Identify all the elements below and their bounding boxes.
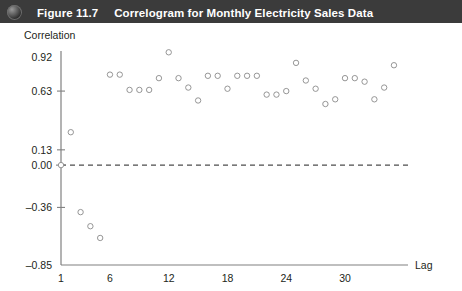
data-point bbox=[117, 72, 122, 77]
data-point bbox=[342, 75, 347, 80]
data-point bbox=[235, 73, 240, 78]
data-point bbox=[372, 97, 377, 102]
data-point bbox=[303, 78, 308, 83]
data-point bbox=[186, 85, 191, 90]
x-tick-label: 30 bbox=[339, 272, 351, 284]
data-point bbox=[362, 79, 367, 84]
figure-caption: Correlogram for Monthly Electricity Sale… bbox=[114, 7, 373, 19]
y-tick-label: 0.00 bbox=[32, 159, 53, 171]
y-tick-label: 0.63 bbox=[32, 85, 53, 97]
data-point bbox=[166, 50, 171, 55]
data-point bbox=[97, 235, 102, 240]
figure-number: Figure 11.7 bbox=[37, 7, 98, 19]
x-tick-label: 6 bbox=[107, 272, 113, 284]
data-point bbox=[68, 130, 73, 135]
y-axis-ticks: 0.920.630.130.00–0.36–0.85 bbox=[26, 51, 66, 271]
data-point bbox=[176, 75, 181, 80]
y-tick-label: –0.85 bbox=[26, 259, 52, 271]
data-point bbox=[225, 86, 230, 91]
data-point bbox=[195, 98, 200, 103]
x-axis-title: Lag bbox=[415, 259, 433, 271]
data-point bbox=[156, 75, 161, 80]
data-point bbox=[293, 60, 298, 65]
data-point bbox=[78, 209, 83, 214]
data-point bbox=[137, 87, 142, 92]
sphere-icon bbox=[7, 5, 22, 20]
data-point bbox=[107, 72, 112, 77]
data-point bbox=[244, 73, 249, 78]
data-point bbox=[127, 87, 132, 92]
data-point bbox=[215, 73, 220, 78]
data-point bbox=[381, 85, 386, 90]
data-points bbox=[58, 50, 396, 241]
x-tick-label: 1 bbox=[58, 272, 64, 284]
data-point bbox=[254, 73, 259, 78]
axis-titles: CorrelationLag bbox=[24, 29, 433, 271]
data-point bbox=[274, 92, 279, 97]
data-point bbox=[284, 88, 289, 93]
y-tick-label: 0.92 bbox=[32, 51, 53, 63]
chart-container: 0.920.630.130.00–0.36–0.85 1612182430 Co… bbox=[0, 25, 462, 291]
figure-title-bar: Figure 11.7 Correlogram for Monthly Elec… bbox=[0, 0, 462, 25]
x-axis-ticks: 1612182430 bbox=[58, 272, 351, 284]
data-point bbox=[58, 162, 63, 167]
y-tick-label: 0.13 bbox=[32, 144, 53, 156]
data-point bbox=[323, 101, 328, 106]
axes-group bbox=[61, 51, 408, 265]
y-axis-title: Correlation bbox=[24, 29, 76, 41]
x-tick-label: 18 bbox=[222, 272, 234, 284]
data-point bbox=[391, 63, 396, 68]
data-point bbox=[264, 92, 269, 97]
data-point bbox=[313, 86, 318, 91]
data-point bbox=[352, 75, 357, 80]
data-point bbox=[146, 87, 151, 92]
data-point bbox=[88, 224, 93, 229]
data-point bbox=[205, 73, 210, 78]
x-tick-label: 12 bbox=[163, 272, 175, 284]
correlogram-plot: 0.920.630.130.00–0.36–0.85 1612182430 Co… bbox=[0, 25, 462, 291]
x-tick-label: 24 bbox=[280, 272, 292, 284]
data-point bbox=[333, 97, 338, 102]
y-tick-label: –0.36 bbox=[26, 201, 52, 213]
